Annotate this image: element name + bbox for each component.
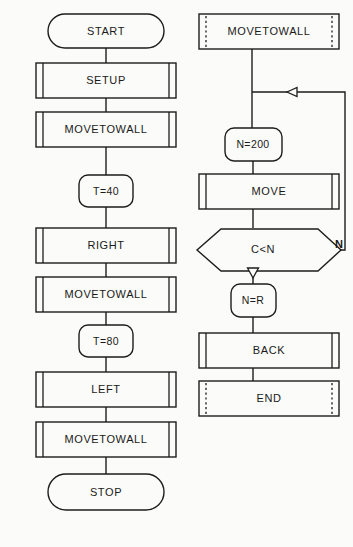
node-back-label: BACK (253, 344, 285, 356)
node-left-label: LEFT (91, 383, 120, 395)
node-right-label: RIGHT (87, 239, 124, 251)
node-movetowall-1[interactable]: MOVETOWALL (36, 112, 176, 147)
node-setup-label: SETUP (86, 74, 126, 86)
arrowhead-loopback (287, 88, 297, 97)
node-end[interactable]: END (199, 381, 339, 416)
flowchart-canvas: START SETUP MOVETOWALL T=40 (0, 0, 353, 547)
node-start-label: START (87, 25, 125, 37)
node-right[interactable]: RIGHT (36, 228, 176, 263)
node-movetowall-4-label: MOVETOWALL (227, 25, 310, 37)
node-t40-label: T=40 (93, 185, 119, 197)
node-movetowall-3[interactable]: MOVETOWALL (36, 422, 176, 457)
node-movetowall-1-label: MOVETOWALL (64, 123, 147, 135)
connector-loopback-no (252, 92, 345, 250)
node-nr-label: N=R (242, 294, 265, 306)
node-n200[interactable]: N=200 (225, 128, 282, 161)
node-start[interactable]: START (48, 14, 164, 48)
node-movetowall-2-label: MOVETOWALL (64, 288, 147, 300)
node-end-label: END (256, 392, 281, 404)
branch-label-no: N (335, 238, 343, 250)
node-movetowall-4[interactable]: MOVETOWALL (199, 14, 339, 49)
node-setup[interactable]: SETUP (36, 63, 176, 98)
arrowhead-decision-yes (248, 268, 259, 278)
node-movetowall-2[interactable]: MOVETOWALL (36, 277, 176, 312)
flowchart-svg: START SETUP MOVETOWALL T=40 (0, 0, 353, 547)
node-decision-cltn[interactable]: C<N (197, 229, 341, 271)
node-decision-label: C<N (251, 243, 275, 255)
node-nr[interactable]: N=R (231, 284, 276, 317)
node-t80[interactable]: T=80 (79, 325, 133, 357)
node-n200-label: N=200 (236, 138, 269, 150)
node-stop-label: STOP (90, 486, 122, 498)
node-movetowall-3-label: MOVETOWALL (64, 433, 147, 445)
node-t80-label: T=80 (93, 335, 119, 347)
node-move-label: MOVE (252, 185, 287, 197)
node-back[interactable]: BACK (199, 333, 339, 368)
node-t40[interactable]: T=40 (79, 175, 133, 207)
node-left[interactable]: LEFT (36, 372, 176, 407)
node-move[interactable]: MOVE (199, 174, 339, 209)
node-stop[interactable]: STOP (48, 474, 164, 510)
